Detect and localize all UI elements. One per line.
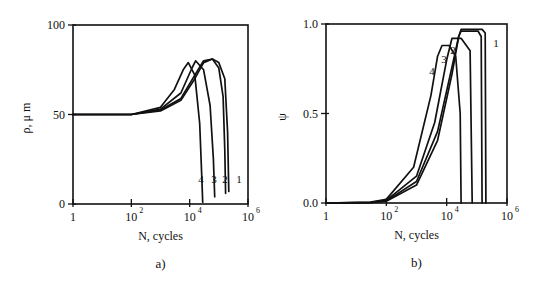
x-tick-exponent: 2 — [139, 206, 143, 215]
curve-label-2: 2 — [450, 44, 456, 56]
x-tick-label: 10 — [184, 210, 196, 224]
x-tick-exponent: 2 — [394, 205, 398, 214]
panel-label: a) — [155, 256, 165, 271]
x-tick-label: 1 — [323, 209, 329, 223]
y-tick-label: 0.5 — [303, 107, 318, 121]
x-tick-exponent: 4 — [198, 206, 202, 215]
figure: 1005001102104106N, cyclesρ, μ ma)43211.0… — [0, 0, 540, 285]
y-tick-label: 0 — [59, 197, 65, 211]
y-tick-label: 1.0 — [303, 17, 318, 31]
y-tick-label: 100 — [47, 18, 65, 32]
curve-label-1: 1 — [493, 37, 499, 49]
x-tick-label: 10 — [125, 210, 137, 224]
panel-label: b) — [411, 255, 422, 270]
x-axis-label: N, cycles — [394, 228, 439, 242]
x-tick-label: 10 — [242, 210, 254, 224]
x-tick-exponent: 4 — [455, 205, 459, 214]
x-tick-exponent: 6 — [515, 205, 519, 214]
curve-label-4: 4 — [198, 173, 204, 185]
y-tick-label: 0.0 — [303, 196, 318, 210]
x-tick-label: 10 — [501, 209, 513, 223]
curve-label-4: 4 — [429, 65, 435, 77]
x-tick-exponent: 6 — [256, 206, 260, 215]
curve-label-3: 3 — [441, 53, 447, 65]
x-tick-label: 1 — [70, 210, 76, 224]
curve-label-2: 2 — [222, 173, 228, 185]
panel-a: 1005001102104106N, cyclesρ, μ ma)4321 — [19, 18, 260, 271]
curve-label-1: 1 — [236, 173, 242, 185]
panel-b: 1.00.50.01102104106N, cyclesψb)4321 — [275, 17, 519, 270]
x-tick-label: 10 — [380, 209, 392, 223]
y-tick-label: 50 — [53, 108, 65, 122]
x-tick-label: 10 — [441, 209, 453, 223]
curve-label-3: 3 — [211, 173, 217, 185]
curve-3 — [326, 38, 472, 203]
y-axis-label: ρ, μ m — [19, 102, 33, 133]
x-axis-label: N, cycles — [138, 229, 183, 243]
curve-4 — [73, 63, 203, 203]
y-axis-label: ψ — [275, 113, 289, 121]
